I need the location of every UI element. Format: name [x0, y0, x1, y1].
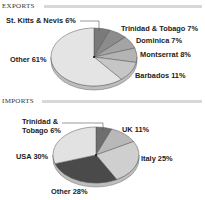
label-imports-uk: UK 11% — [122, 126, 149, 135]
label-imports-trinidad-line2: Tobago 6% — [22, 127, 61, 136]
label-imports-usa: USA 30% — [16, 153, 48, 162]
label-exports-dominica: Dominica 7% — [136, 37, 182, 46]
imports-pie-chart — [53, 127, 139, 187]
label-exports-other: Other 61% — [10, 56, 47, 65]
label-exports-barbados: Barbados 11% — [135, 72, 186, 81]
label-exports-montserrat: Montserrat 8% — [140, 51, 191, 60]
label-exports-trinidad: Trinidad & Tobago 7% — [121, 25, 198, 34]
label-imports-italy: Italy 25% — [141, 155, 173, 164]
label-imports-other: Other 28% — [51, 188, 88, 197]
label-exports-stkitts: St. Kitts & Nevis 6% — [6, 17, 76, 26]
exports-pie-chart — [51, 28, 137, 90]
